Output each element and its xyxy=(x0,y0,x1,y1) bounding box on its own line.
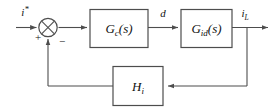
reference-sup: * xyxy=(24,4,29,14)
duty-base: d xyxy=(160,7,166,19)
feedback-base: H xyxy=(131,79,142,94)
output-sub: L xyxy=(243,13,248,22)
summing-junction-minus-sign: − xyxy=(59,35,65,47)
controller-arg: (s) xyxy=(119,21,133,36)
block-diagram: Gc(s) Gid(s) Hi i* d iL + − xyxy=(0,0,275,112)
plant-arg: (s) xyxy=(208,21,222,36)
duty-signal-label: d xyxy=(160,7,166,19)
output-signal-label: iL xyxy=(241,7,248,22)
reference-signal-label: i* xyxy=(21,4,29,18)
block-diagram-canvas: Gc(s) Gid(s) Hi i* d iL + − xyxy=(0,0,275,112)
summing-junction-plus-sign: + xyxy=(35,31,41,43)
controller-block-label: Gc(s) xyxy=(105,21,132,38)
